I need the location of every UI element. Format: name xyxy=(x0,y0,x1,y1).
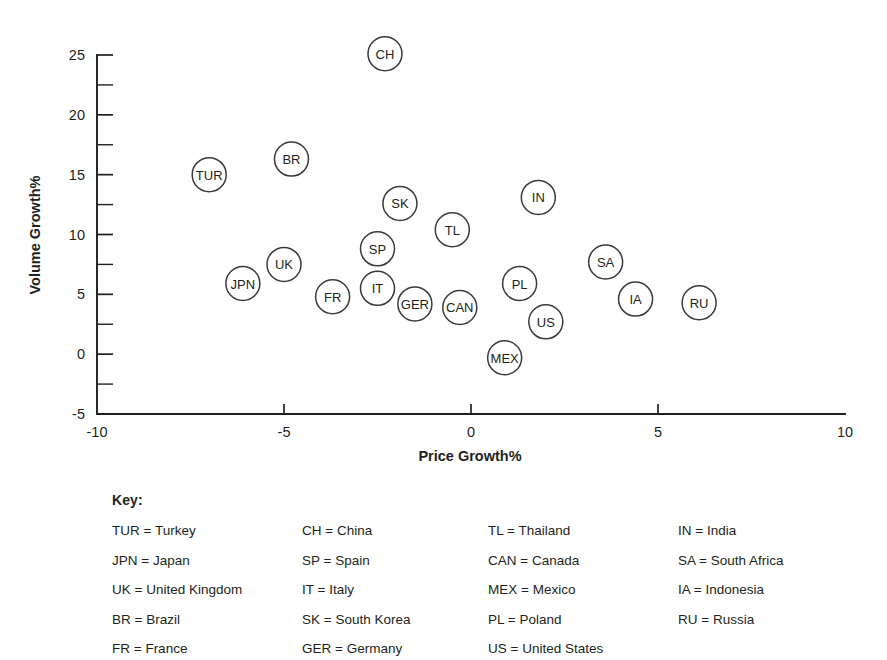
data-point: CAN xyxy=(443,290,477,324)
data-point-label: RU xyxy=(690,296,709,311)
key-entry: IN = India xyxy=(678,524,858,538)
key-entry: SP = Spain xyxy=(302,554,488,568)
y-tick-label: -5 xyxy=(72,406,85,422)
data-point-label: CAN xyxy=(446,300,473,315)
key-entry: SK = South Korea xyxy=(302,613,488,627)
key-entry: PL = Poland xyxy=(488,613,678,627)
key-entry: TL = Thailand xyxy=(488,524,678,538)
data-point: TL xyxy=(435,213,469,247)
key-column-0: TUR = TurkeyJPN = JapanUK = United Kingd… xyxy=(112,524,302,660)
data-point: MEX xyxy=(488,341,522,375)
data-point-label: PL xyxy=(512,277,528,292)
key-legend: Key: TUR = TurkeyJPN = JapanUK = United … xyxy=(112,492,872,660)
data-point-label: SA xyxy=(597,255,615,270)
data-point: TUR xyxy=(192,158,226,192)
y-axis-title: Volume Growth% xyxy=(27,175,43,294)
x-tick-label: 0 xyxy=(467,424,475,440)
data-point-label: GER xyxy=(401,297,429,312)
key-entry: RU = Russia xyxy=(678,613,858,627)
key-entry: UK = United Kingdom xyxy=(112,583,302,597)
key-entry: BR = Brazil xyxy=(112,613,302,627)
scatter-plot-svg: -50510152025-10-50510 CHBRTURINSKTLSPSAU… xyxy=(0,0,887,480)
data-point-label: TL xyxy=(445,223,460,238)
axes xyxy=(97,55,845,414)
x-axis-title: Price Growth% xyxy=(418,448,521,464)
data-point-label: JPN xyxy=(231,277,256,292)
data-point-label: FR xyxy=(324,290,341,305)
x-tick-label: -5 xyxy=(278,424,291,440)
data-point: BR xyxy=(274,142,308,176)
data-point-label: MEX xyxy=(491,351,520,366)
data-point: PL xyxy=(503,267,537,301)
x-tick-label: 10 xyxy=(837,424,853,440)
data-point-label: UK xyxy=(275,257,293,272)
key-entry: GER = Germany xyxy=(302,642,488,656)
key-entry: SA = South Africa xyxy=(678,554,858,568)
data-point-label: BR xyxy=(282,152,300,167)
data-point: SK xyxy=(383,186,417,220)
y-tick-label: 15 xyxy=(69,167,85,183)
key-entry: FR = France xyxy=(112,642,302,656)
data-point-label: US xyxy=(537,315,555,330)
key-entry: JPN = Japan xyxy=(112,554,302,568)
y-tick-label: 25 xyxy=(69,47,85,63)
x-tick-label: -10 xyxy=(87,424,108,440)
data-point-label: SK xyxy=(391,196,409,211)
data-point: UK xyxy=(267,247,301,281)
key-entry: MEX = Mexico xyxy=(488,583,678,597)
data-point-label: IN xyxy=(532,190,545,205)
key-entry: IA = Indonesia xyxy=(678,583,858,597)
key-entry: US = United States xyxy=(488,642,678,656)
data-point: US xyxy=(529,305,563,339)
y-tick-label: 10 xyxy=(69,227,85,243)
y-tick-label: 20 xyxy=(69,107,85,123)
data-point: JPN xyxy=(226,267,260,301)
data-point: IT xyxy=(361,271,395,305)
data-points: CHBRTURINSKTLSPSAUKJPNPLITFRIARUGERCANUS… xyxy=(192,37,716,375)
data-point: IN xyxy=(521,180,555,214)
data-point: RU xyxy=(682,286,716,320)
key-entry: CAN = Canada xyxy=(488,554,678,568)
axis-spines xyxy=(97,55,845,414)
key-column-1: CH = ChinaSP = SpainIT = ItalySK = South… xyxy=(302,524,488,660)
data-point: SP xyxy=(361,232,395,266)
y-tick-label: 0 xyxy=(77,346,85,362)
y-tick-label: 5 xyxy=(77,286,85,302)
data-point-label: IA xyxy=(629,292,642,307)
key-columns: TUR = TurkeyJPN = JapanUK = United Kingd… xyxy=(112,524,872,660)
key-title: Key: xyxy=(112,492,872,508)
data-point-label: TUR xyxy=(196,168,223,183)
x-tick-label: 5 xyxy=(654,424,662,440)
data-point: SA xyxy=(589,245,623,279)
key-entry: TUR = Turkey xyxy=(112,524,302,538)
data-point: CH xyxy=(368,37,402,71)
key-entry: CH = China xyxy=(302,524,488,538)
plot-area: -50510152025-10-50510 CHBRTURINSKTLSPSAU… xyxy=(0,0,887,480)
key-column-3: IN = IndiaSA = South AfricaIA = Indonesi… xyxy=(678,524,858,642)
data-point: IA xyxy=(619,282,653,316)
data-point-label: IT xyxy=(372,281,384,296)
data-point-label: SP xyxy=(369,242,386,257)
key-entry: IT = Italy xyxy=(302,583,488,597)
data-point: GER xyxy=(398,287,432,321)
data-point: FR xyxy=(316,280,350,314)
data-point-label: CH xyxy=(376,47,395,62)
key-column-2: TL = ThailandCAN = CanadaMEX = MexicoPL … xyxy=(488,524,678,660)
